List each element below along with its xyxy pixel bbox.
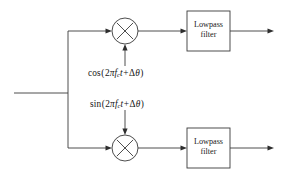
lowpass-filter-top-label: Lowpass filter <box>187 20 230 39</box>
cos-oscillator-label: cos(2πfct+Δθ) <box>88 68 144 78</box>
lowpass-filter-top-line1: Lowpass <box>187 20 230 30</box>
cos-function-name: cos <box>88 68 101 78</box>
lowpass-filter-top-line2: filter <box>187 30 230 40</box>
bottom-mixer-input-arrow-icon <box>106 145 113 150</box>
cos-close-paren: ) <box>140 68 144 78</box>
block-diagram-canvas: Lowpass filter Lowpass filter cos(2πfct+… <box>0 0 282 176</box>
output-arrow-bottom-icon <box>268 145 275 150</box>
cos-oscillator-arrow-icon <box>122 44 127 51</box>
lowpass-filter-bottom-line1: Lowpass <box>187 137 230 147</box>
lowpass-filter-bottom-line2: filter <box>187 147 230 157</box>
sin-oscillator-arrow-icon <box>122 129 127 136</box>
output-arrow-top-icon <box>268 28 275 33</box>
sin-oscillator-label: sin(2πfct+Δθ) <box>90 99 145 109</box>
sin-close-paren: ) <box>140 99 144 109</box>
top-mixer-input-arrow-icon <box>106 28 113 33</box>
lowpass-filter-bottom-label: Lowpass filter <box>187 137 230 156</box>
diagram-vector-layer <box>0 0 282 176</box>
sin-function-name: sin <box>90 99 101 109</box>
